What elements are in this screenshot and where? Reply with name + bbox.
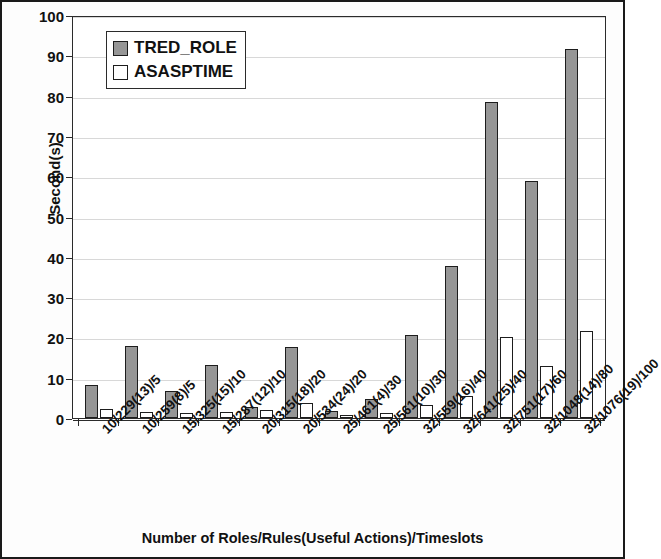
- y-tick-mark-70: [66, 137, 72, 138]
- y-tick-label-10: 10: [28, 371, 64, 386]
- bar-0-10: [485, 102, 498, 418]
- plot-area: TRED_ROLE ASASPTIME: [72, 16, 606, 419]
- y-tick-label-90: 90: [28, 49, 64, 64]
- y-tick-mark-50: [66, 218, 72, 219]
- legend-label-series-1: ASASPTIME: [134, 62, 233, 82]
- bar-group: [279, 17, 319, 418]
- y-tick-mark-10: [66, 379, 72, 380]
- y-tick-mark-20: [66, 338, 72, 339]
- y-tick-mark-90: [66, 56, 72, 57]
- y-tick-mark-30: [66, 298, 72, 299]
- y-tick-mark-60: [66, 177, 72, 178]
- legend-label-series-0: TRED_ROLE: [134, 38, 237, 58]
- bar-0-11: [525, 181, 538, 418]
- legend-item-tred-role: TRED_ROLE: [113, 36, 237, 60]
- chart-legend: TRED_ROLE ASASPTIME: [106, 31, 246, 89]
- y-tick-label-70: 70: [28, 129, 64, 144]
- y-tick-mark-100: [66, 16, 72, 17]
- y-tick-label-100: 100: [28, 9, 64, 24]
- y-tick-label-20: 20: [28, 331, 64, 346]
- y-tick-label-0: 0: [28, 412, 64, 427]
- bar-0-12: [565, 49, 578, 418]
- legend-item-asasptime: ASASPTIME: [113, 60, 237, 84]
- y-tick-mark-40: [66, 258, 72, 259]
- legend-swatch-filled-icon: [113, 41, 128, 56]
- y-tick-label-30: 30: [28, 291, 64, 306]
- y-tick-label-80: 80: [28, 89, 64, 104]
- y-tick-label-50: 50: [28, 210, 64, 225]
- y-axis-tick-labels: 0102030405060708090100: [28, 16, 64, 419]
- legend-swatch-empty-icon: [113, 65, 128, 80]
- x-axis-title: Number of Roles/Rules(Useful Actions)/Ti…: [2, 530, 623, 546]
- x-axis-tick-labels: 10/229(13)/510/259(8)/515/325(15)/1015/2…: [72, 426, 606, 532]
- y-tick-label-60: 60: [28, 170, 64, 185]
- x-tick-mark-0: [78, 419, 79, 426]
- bar-group: [359, 17, 399, 418]
- bar-group: [319, 17, 359, 418]
- bar-group: [559, 17, 599, 418]
- bar-group: [399, 17, 439, 418]
- y-tick-label-40: 40: [28, 250, 64, 265]
- bar-group: [439, 17, 479, 418]
- bar-0-0: [85, 385, 98, 418]
- bar-group: [479, 17, 519, 418]
- y-tick-mark-0: [66, 419, 72, 420]
- bar-group: [519, 17, 559, 418]
- y-tick-mark-80: [66, 97, 72, 98]
